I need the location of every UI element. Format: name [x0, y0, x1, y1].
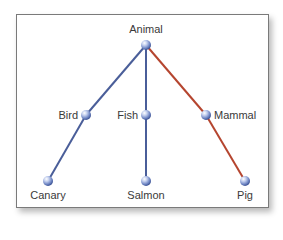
node-label-fish: Fish — [117, 109, 138, 121]
node-label-bird: Bird — [58, 109, 78, 121]
node-label-mammal: Mammal — [214, 109, 256, 121]
edge-animal-mammal — [146, 45, 206, 115]
node-animal-icon — [141, 40, 151, 50]
node-fish-icon — [141, 110, 151, 120]
edge-bird-canary — [48, 115, 86, 181]
node-label-animal: Animal — [129, 23, 163, 35]
node-salmon-icon — [141, 176, 151, 186]
node-pig-icon — [240, 176, 250, 186]
edge-animal-bird — [86, 45, 146, 115]
node-canary-icon — [43, 176, 53, 186]
node-label-pig: Pig — [237, 189, 253, 201]
node-mammal-icon — [201, 110, 211, 120]
node-label-canary: Canary — [30, 189, 65, 201]
node-bird-icon — [81, 110, 91, 120]
node-label-salmon: Salmon — [127, 189, 164, 201]
edge-mammal-pig — [206, 115, 245, 181]
